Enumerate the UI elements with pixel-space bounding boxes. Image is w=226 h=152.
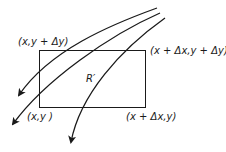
region-label: R′ — [86, 74, 95, 84]
corner-label-bottom-left: (x,y ) — [27, 112, 53, 122]
corner-label-top-left: (x,y + Δy) — [18, 37, 68, 47]
corner-label-bottom-right: (x + Δx,y) — [126, 112, 176, 122]
diagram-canvas — [0, 0, 226, 152]
corner-label-top-right: (x + Δx,y + Δy) — [150, 46, 226, 56]
